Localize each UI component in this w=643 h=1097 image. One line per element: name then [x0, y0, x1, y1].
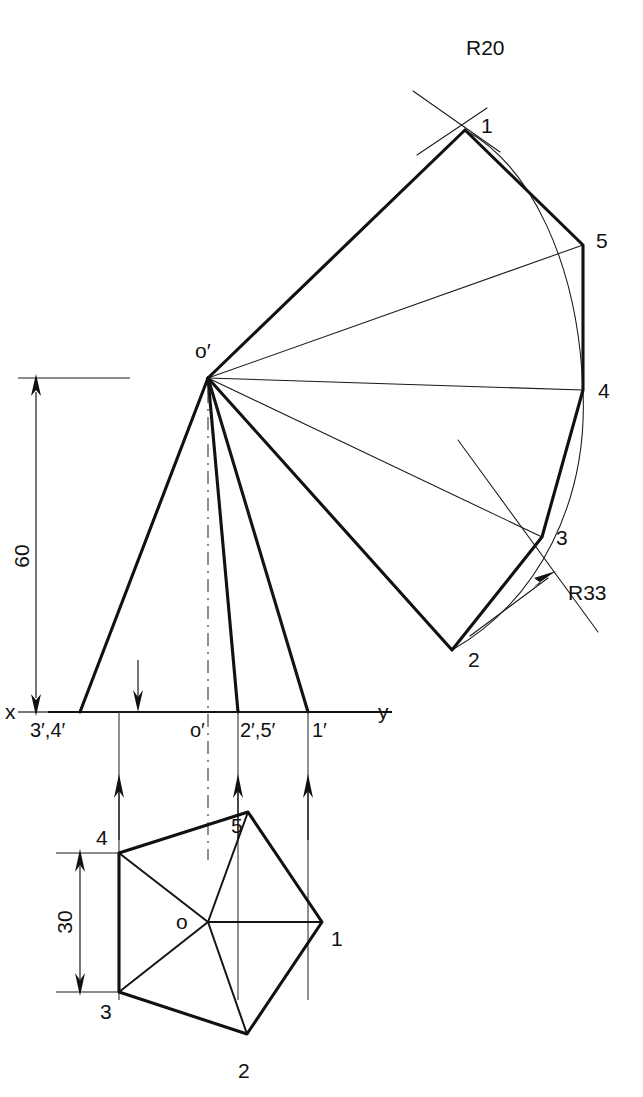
dev-point-1-label: 1: [481, 114, 493, 137]
dev-point-2-label: 2: [468, 648, 480, 671]
outer-construction-arc: [452, 130, 583, 650]
top-vertex-2-label: 2: [238, 1059, 250, 1082]
projector-arrow-right: [303, 774, 313, 840]
top-view-pentagon: o: [119, 812, 322, 1034]
r20-label: R20: [466, 36, 505, 59]
radial-o-5: [208, 245, 583, 378]
spoke-o-2: [208, 922, 247, 1034]
width-dimension-value: 30: [53, 910, 76, 933]
top-centre-label: o: [176, 910, 188, 933]
technical-drawing-svg: 60 x y o′ 3′,4′ o′ 2′,5′ 1′: [0, 0, 643, 1097]
radial-o-4: [208, 378, 583, 390]
base-point-25-label: 2′,5′: [240, 719, 276, 741]
development-outline: [208, 130, 583, 650]
radial-o-3: [208, 378, 542, 537]
base-point-34-label: 3′,4′: [30, 719, 66, 741]
dev-point-3-label: 3: [556, 526, 568, 549]
width-dimension-30: 30: [53, 849, 122, 996]
projector-arrow-left: [114, 774, 124, 840]
spoke-o-3: [119, 922, 208, 992]
dev-point-5-label: 5: [596, 229, 608, 252]
base-point-1-label: 1′: [312, 719, 327, 741]
top-vertex-4-label: 4: [96, 826, 108, 849]
dev-point-4-label: 4: [598, 379, 610, 402]
r20-tangent-line: [417, 108, 487, 155]
projector-arrow-axis: [133, 660, 143, 712]
front-view-base-labels: 3′,4′ o′ 2′,5′ 1′: [30, 719, 327, 741]
base-point-o-label: o′: [190, 719, 205, 741]
front-apex-label: o′: [195, 339, 211, 362]
r33-label: R33: [568, 581, 607, 604]
top-vertex-5-label: 5: [231, 814, 243, 837]
spoke-o-4: [119, 853, 208, 922]
top-vertex-1-label: 1: [331, 927, 343, 950]
axis-label-y: y: [378, 700, 389, 723]
engineering-drawing-canvas: 60 x y o′ 3′,4′ o′ 2′,5′ 1′: [0, 0, 643, 1097]
top-vertex-3-label: 3: [100, 1000, 112, 1023]
height-dimension-60: 60: [10, 374, 130, 716]
development-fan: [208, 91, 598, 712]
height-dimension-value: 60: [10, 544, 33, 567]
axis-label-x: x: [5, 700, 16, 723]
radius-callout-r20: R20: [466, 36, 505, 59]
